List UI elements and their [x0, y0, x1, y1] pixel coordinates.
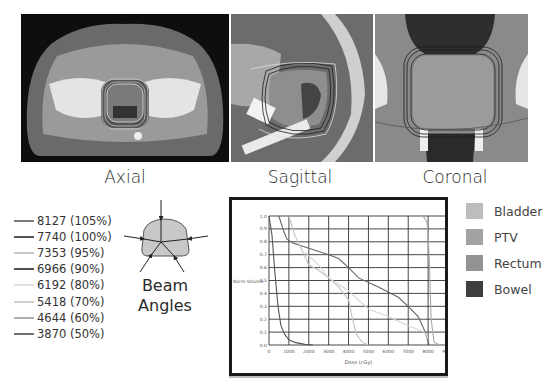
- dvh-curve-rectum-2: [305, 252, 428, 339]
- x-tick-label: 4000: [343, 349, 355, 354]
- coronal-caption: Coronal: [395, 167, 515, 187]
- legend-label: PTV: [494, 230, 518, 245]
- beam-angles-label-line2: Angles: [120, 296, 210, 316]
- legend-item-ptv: PTV: [466, 224, 542, 250]
- isodose-dose: 6966: [37, 262, 66, 276]
- x-tick-label: 3000: [323, 349, 335, 354]
- y-axis-label: Norm Volume: [233, 279, 264, 284]
- dvh-chart: 01000200030004000500060007000800090000.0…: [229, 197, 448, 376]
- x-axis-label: Dose (cGy): [345, 359, 373, 366]
- isodose-item: 6966 (90%): [14, 261, 112, 277]
- legend-item-bowel: Bowel: [466, 276, 542, 302]
- y-tick-label: 0.9: [260, 226, 267, 231]
- isodose-line-swatch: [14, 252, 34, 254]
- bowel-swatch: [466, 281, 483, 297]
- isodose-dose: 7353: [37, 246, 66, 260]
- isodose-pct: (95%): [70, 246, 105, 260]
- y-tick-label: 0.7: [260, 252, 267, 257]
- patient-outline-icon: [142, 219, 189, 256]
- isodose-line-swatch: [14, 333, 34, 335]
- x-tick-label: 1000: [283, 349, 295, 354]
- legend-label: Bowel: [494, 282, 532, 297]
- isodose-pct: (90%): [70, 262, 105, 276]
- isodose-item: 7740 (100%): [14, 229, 112, 245]
- x-tick-label: 9000: [442, 349, 445, 354]
- y-tick-label: 1.0: [260, 214, 267, 219]
- dvh-plot: 01000200030004000500060007000800090000.0…: [232, 200, 445, 373]
- legend-item-bladder: Bladder: [466, 198, 542, 224]
- legend-item-rectum: Rectum: [466, 250, 542, 276]
- y-tick-label: 0.0: [260, 343, 267, 348]
- legend-label: Rectum: [494, 256, 542, 271]
- structure-legend: Bladder PTV Rectum Bowel: [466, 198, 542, 302]
- y-tick-label: 0.8: [260, 239, 267, 244]
- y-tick-label: 0.2: [260, 317, 267, 322]
- rectum-swatch: [466, 255, 483, 271]
- isodose-line-swatch: [14, 284, 34, 286]
- sagittal-ct-image: [231, 14, 373, 162]
- isodose-dose: 6192: [37, 278, 66, 292]
- isodose-dose: 3870: [37, 327, 66, 341]
- isodose-item: 4644 (60%): [14, 310, 112, 326]
- isodose-line-swatch: [14, 301, 34, 303]
- isodose-line-swatch: [14, 220, 34, 222]
- y-tick-label: 0.6: [260, 265, 267, 270]
- coronal-ct-image: [375, 14, 528, 162]
- legend-label: Bladder: [494, 204, 542, 219]
- isodose-item: 6192 (80%): [14, 277, 112, 293]
- isodose-line-swatch: [14, 317, 34, 319]
- x-tick-label: 5000: [363, 349, 375, 354]
- isodose-legend: 8127 (105%) 7740 (100%) 7353 (95%) 6966 …: [14, 213, 112, 342]
- isodose-pct: (70%): [70, 295, 105, 309]
- isodose-item: 8127 (105%): [14, 213, 112, 229]
- isodose-dose: 7740: [37, 230, 66, 244]
- bladder-swatch: [466, 203, 483, 219]
- x-tick-label: 8000: [422, 349, 434, 354]
- isodose-dose: 8127: [37, 214, 66, 228]
- isodose-line-swatch: [14, 236, 34, 238]
- axial-ct-image: [21, 14, 229, 162]
- axial-caption: Axial: [60, 167, 190, 187]
- x-tick-label: 0: [268, 349, 271, 354]
- x-tick-label: 7000: [402, 349, 414, 354]
- isodose-dose: 5418: [37, 295, 66, 309]
- isodose-item: 7353 (95%): [14, 245, 112, 261]
- x-tick-label: 6000: [383, 349, 395, 354]
- sagittal-caption: Sagittal: [245, 167, 355, 187]
- beam-angles-label-line1: Beam: [120, 276, 210, 296]
- isodose-pct: (105%): [70, 214, 112, 228]
- isodose-dose: 4644: [37, 311, 66, 325]
- isodose-pct: (50%): [70, 327, 105, 341]
- isodose-pct: (80%): [70, 278, 105, 292]
- y-tick-label: 0.3: [260, 304, 267, 309]
- isodose-pct: (100%): [70, 230, 112, 244]
- y-tick-label: 0.1: [260, 330, 267, 335]
- isodose-pct: (60%): [70, 311, 105, 325]
- isodose-line-swatch: [14, 268, 34, 270]
- isodose-item: 3870 (50%): [14, 326, 112, 342]
- x-tick-label: 2000: [303, 349, 315, 354]
- ptv-swatch: [466, 229, 483, 245]
- y-tick-label: 0.4: [260, 291, 267, 296]
- isodose-item: 5418 (70%): [14, 293, 112, 309]
